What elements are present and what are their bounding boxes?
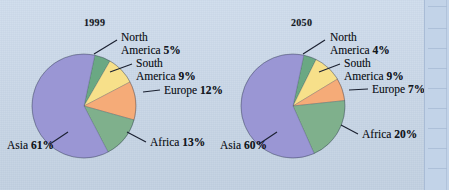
label-asia-text-2050: Asia xyxy=(220,139,241,151)
label-north-america-line1-1999: North xyxy=(121,31,148,43)
leader-south-america-2050 xyxy=(319,64,340,72)
leader-africa-2050 xyxy=(341,125,358,134)
value-europe-1999: 12% xyxy=(200,84,223,96)
label-north-america-line2-2050: America xyxy=(330,44,370,56)
label-south-america-1999: South America 9% xyxy=(136,57,196,82)
value-africa-1999: 13% xyxy=(182,136,205,148)
label-south-america-line1-1999: South xyxy=(136,57,163,69)
leader-europe-2050 xyxy=(349,89,368,90)
label-north-america-line1-2050: North xyxy=(330,31,357,43)
leader-africa-1999 xyxy=(127,132,146,142)
label-africa-text-1999: Africa xyxy=(150,136,179,148)
figure-page: 1999 North America 5% South America 9% xyxy=(0,0,449,190)
label-europe-text-1999: Europe xyxy=(164,84,197,96)
value-asia-1999: 61% xyxy=(31,139,54,151)
pie-chart-1999: 1999 North America 5% South America 9% xyxy=(0,0,225,190)
value-africa-2050: 20% xyxy=(394,128,417,140)
label-south-america-line2-2050: America xyxy=(344,70,384,82)
value-south-america-2050: 9% xyxy=(386,70,403,82)
label-asia-2050: Asia 60% xyxy=(220,139,267,152)
label-asia-1999: Asia 61% xyxy=(7,139,54,152)
label-europe-2050: Europe 7% xyxy=(372,83,425,96)
label-north-america-line2-1999: America xyxy=(121,44,161,56)
pie-chart-2050: 2050 North America 4% South America 9% xyxy=(225,0,425,190)
label-north-america-2050: North America 4% xyxy=(330,31,390,56)
value-europe-2050: 7% xyxy=(408,83,425,95)
leader-north-america-1999 xyxy=(94,40,117,54)
adjacent-table-edge xyxy=(424,0,449,190)
leader-south-america-1999 xyxy=(110,64,132,72)
value-asia-2050: 60% xyxy=(244,139,267,151)
label-asia-text-1999: Asia xyxy=(7,139,28,151)
label-south-america-line1-2050: South xyxy=(344,57,371,69)
label-africa-2050: Africa 20% xyxy=(362,128,417,141)
leader-north-america-2050 xyxy=(303,40,325,54)
leader-europe-1999 xyxy=(143,90,160,92)
label-europe-1999: Europe 12% xyxy=(164,84,223,97)
label-north-america-1999: North America 5% xyxy=(121,31,181,56)
label-africa-text-2050: Africa xyxy=(362,128,391,140)
value-north-america-1999: 5% xyxy=(163,44,180,56)
label-europe-text-2050: Europe xyxy=(372,83,405,95)
value-south-america-1999: 9% xyxy=(178,70,195,82)
value-north-america-2050: 4% xyxy=(372,44,389,56)
label-south-america-2050: South America 9% xyxy=(344,57,404,82)
label-africa-1999: Africa 13% xyxy=(150,136,205,149)
label-south-america-line2-1999: America xyxy=(136,70,176,82)
